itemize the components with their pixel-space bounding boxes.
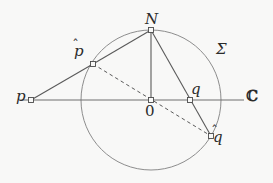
label-q-hat-group: q ̂ [213,130,223,145]
label-q-hat: q ̂ [213,130,223,145]
stereographic-projection-figure: p p ̂ N 0 q q ̂ Σ ℂ [0,0,273,183]
segment-phat-to-n [93,30,151,64]
label-p-hat-base: p [74,42,84,60]
label-q: q [191,82,201,97]
point-marker-q [188,98,193,103]
point-marker-n [149,28,154,33]
label-sigma: Σ [216,42,227,57]
segment-n-to-qhat [151,30,211,136]
label-p: p [16,89,26,104]
point-marker-phat [91,62,96,67]
point-marker-p [29,98,34,103]
label-origin: 0 [145,104,155,119]
label-n: N [145,12,158,27]
label-complex-plane: ℂ [246,89,257,104]
label-p-hat: p ̂ [74,44,84,59]
label-q-hat-base: q [213,128,223,146]
label-p-hat-group: p ̂ [74,44,84,59]
figure-canvas [0,0,273,183]
